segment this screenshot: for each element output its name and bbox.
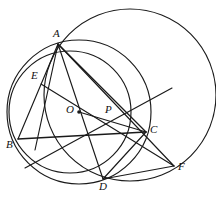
points-group <box>77 110 81 114</box>
point-O-dot <box>77 110 81 114</box>
point-label-F: F <box>178 161 185 172</box>
point-label-C: C <box>150 124 157 135</box>
point-label-P: P <box>105 104 112 115</box>
point-label-E: E <box>31 70 38 81</box>
geometry-figure: A B C D E F O P <box>0 0 216 206</box>
point-label-A: A <box>53 28 60 39</box>
segment-A-B <box>18 44 58 139</box>
point-label-O: O <box>66 104 74 115</box>
point-label-B: B <box>6 139 13 150</box>
point-label-D: D <box>99 181 107 192</box>
circle-large <box>44 9 216 181</box>
circles-group <box>7 9 216 184</box>
